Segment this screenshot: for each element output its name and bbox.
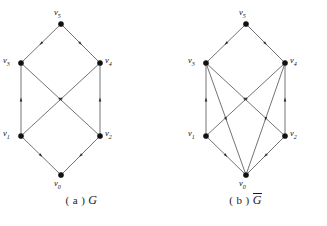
- vertex-label-v3: v3: [188, 55, 195, 67]
- graph-vertex-v4: [282, 60, 287, 65]
- edge-direction-arrow-icon: [20, 98, 23, 102]
- graph-a-canvas: [0, 0, 163, 195]
- vertex-label-v2: v2: [105, 128, 112, 140]
- caption-a-index: ( a ): [66, 194, 86, 206]
- graph-panel-b: v5v3v4v1v2v0 ( b )G: [164, 0, 327, 226]
- graph-vertex-v0: [243, 172, 248, 177]
- caption-a-name: G: [88, 193, 97, 207]
- graph-vertex-v3: [18, 60, 23, 65]
- graph-vertex-v1: [18, 133, 23, 138]
- graph-vertex-v1: [203, 133, 208, 138]
- vertex-label-v5: v5: [54, 7, 61, 19]
- caption-a: ( a )G: [0, 193, 163, 208]
- caption-b-name: G: [253, 193, 262, 207]
- graph-vertex-v5: [58, 21, 63, 26]
- edge-direction-arrow-icon: [265, 117, 268, 121]
- vertex-label-v4: v4: [105, 55, 112, 67]
- vertex-label-v2: v2: [290, 128, 297, 140]
- edge-direction-arrow-icon: [205, 98, 208, 102]
- vertex-label-v1: v1: [188, 128, 195, 140]
- vertex-label-v5: v5: [239, 7, 246, 19]
- graph-vertex-v2: [97, 133, 102, 138]
- graph-vertex-v4: [97, 60, 102, 65]
- vertex-label-v0: v0: [239, 178, 246, 190]
- vertex-label-v3: v3: [3, 55, 10, 67]
- graph-vertex-v2: [282, 133, 287, 138]
- caption-b-index: ( b ): [229, 194, 249, 206]
- graph-vertex-v0: [58, 172, 63, 177]
- caption-b: ( b )G: [164, 193, 327, 207]
- vertex-label-v4: v4: [290, 55, 297, 67]
- graph-panel-a: v5v3v4v1v2v0 ( a )G: [0, 0, 163, 226]
- figure-container: v5v3v4v1v2v0 ( a )G v5v3v4v1v2v0 ( b )G: [0, 0, 327, 226]
- vertex-label-v1: v1: [3, 128, 10, 140]
- edge-direction-arrow-icon: [284, 98, 287, 102]
- graph-vertex-v3: [203, 60, 208, 65]
- graph-vertex-v5: [243, 21, 248, 26]
- edge-direction-arrow-icon: [99, 98, 102, 102]
- vertex-label-v0: v0: [54, 178, 61, 190]
- graph-b-canvas: [164, 0, 327, 195]
